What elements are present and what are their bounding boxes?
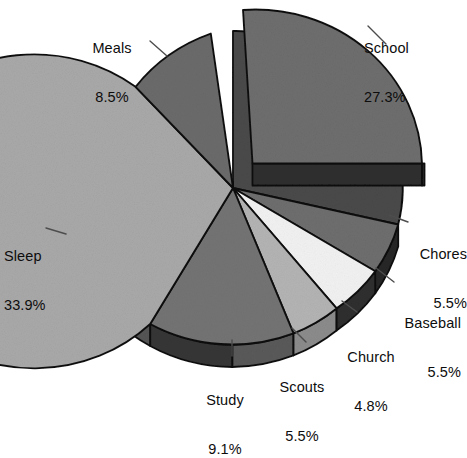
slice-label-school-percent: 27.3%: [364, 89, 409, 105]
slice-label-church-name: Church: [331, 349, 411, 365]
slice-label-sleep-name: Sleep: [4, 248, 74, 264]
slice-label-scouts-name: Scouts: [263, 379, 341, 395]
slice-side-school-outer: [422, 164, 425, 186]
slice-label-meals-percent: 8.5%: [76, 89, 148, 105]
slice-label-meals-name: Meals: [76, 40, 148, 56]
slice-label-sleep: Sleep 33.9%: [4, 216, 74, 346]
slice-label-study-name: Study: [189, 392, 261, 408]
slice-label-meals: Meals 8.5%: [76, 8, 148, 138]
slice-label-church-percent: 4.8%: [331, 398, 411, 414]
slice-label-study-percent: 9.1%: [189, 441, 261, 457]
slice-label-school: School 27.3%: [364, 8, 409, 138]
slice-label-church: Church 4.8%: [331, 317, 411, 447]
slice-label-chores-name: Chores: [357, 246, 467, 262]
slice-label-sleep-percent: 33.9%: [4, 297, 74, 313]
slice-side-school: [253, 164, 423, 186]
slice-label-scouts-percent: 5.5%: [263, 428, 341, 444]
leader-line-meals: [150, 41, 167, 56]
slice-label-scouts: Scouts 5.5%: [263, 347, 341, 458]
slice-label-study: Study 9.1%: [189, 360, 261, 458]
slice-label-school-name: School: [364, 40, 409, 56]
